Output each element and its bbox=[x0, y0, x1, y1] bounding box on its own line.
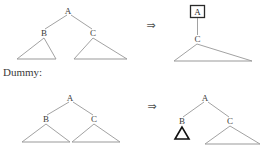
node-label-a: A bbox=[67, 93, 74, 103]
edge-a-to-b bbox=[45, 15, 67, 29]
subtree-triangle-c bbox=[174, 44, 252, 61]
node-label-c: C bbox=[91, 114, 97, 124]
edge-a-to-b bbox=[47, 102, 69, 115]
tree-transformation-diagram: A B C ⇒ A C bbox=[0, 0, 261, 147]
subtree-triangle-b bbox=[17, 38, 56, 59]
node-label-b: B bbox=[41, 28, 47, 38]
node-label-b: B bbox=[179, 116, 185, 126]
tree-bottom-left: A B C bbox=[22, 93, 120, 142]
subtree-triangle-c bbox=[74, 38, 127, 59]
edge-a-to-b bbox=[183, 102, 204, 117]
subtree-triangle-c bbox=[72, 124, 120, 142]
node-label-a-boxed: A bbox=[194, 7, 201, 17]
tree-top-left: A B C bbox=[17, 6, 127, 59]
tree-bottom-right: A B C bbox=[175, 93, 260, 144]
tree-top-right: A C bbox=[174, 6, 252, 62]
figure-canvas: A B C ⇒ A C bbox=[0, 0, 261, 147]
dummy-node-triangle bbox=[175, 127, 189, 139]
subtree-triangle-c bbox=[205, 126, 260, 144]
subtree-triangle-b bbox=[22, 124, 70, 142]
node-label-a: A bbox=[202, 93, 209, 103]
node-label-c: C bbox=[194, 34, 200, 44]
edge-a-to-c bbox=[208, 102, 229, 117]
node-label-c: C bbox=[227, 116, 233, 126]
transform-arrow-top: ⇒ bbox=[146, 19, 155, 32]
edge-a-to-c bbox=[71, 15, 92, 29]
node-label-b: B bbox=[43, 114, 49, 124]
transform-arrow-bottom: ⇒ bbox=[147, 100, 156, 113]
node-label-a: A bbox=[65, 6, 72, 16]
caption-dummy-label: Dummy: bbox=[3, 66, 42, 78]
node-label-c: C bbox=[90, 28, 96, 38]
